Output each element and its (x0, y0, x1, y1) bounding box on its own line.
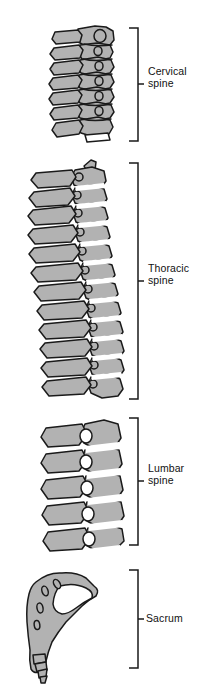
spine-illustration (0, 0, 214, 696)
sacrum-illustration (27, 573, 98, 683)
region-brackets (129, 28, 144, 668)
thoracic-spine-illustration (28, 160, 124, 398)
bracket-lumbar (129, 418, 138, 545)
label-thoracic-spine: Thoracic spine (148, 263, 189, 286)
label-lumbar-spine: Lumbar spine (148, 463, 184, 486)
label-sacrum: Sacrum (146, 613, 183, 625)
lumbar-spine-illustration (41, 420, 124, 557)
spine-diagram: Cervical spine Thoracic spine Lumbar spi… (0, 0, 214, 696)
cervical-spine-illustration (49, 26, 114, 142)
bracket-sacrum (129, 570, 138, 668)
bracket-thoracic (129, 163, 138, 399)
bracket-cervical (129, 28, 138, 141)
label-cervical-spine: Cervical spine (148, 66, 187, 89)
